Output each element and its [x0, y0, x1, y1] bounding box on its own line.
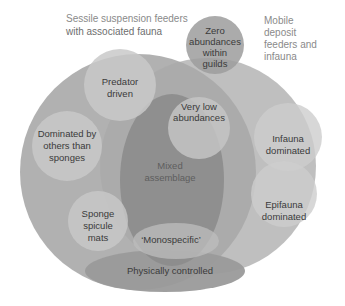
mobile-title-line-3: feeders and	[264, 39, 317, 50]
svg-text:Physically controlled: Physically controlled	[127, 265, 213, 276]
svg-text:abundances: abundances	[189, 36, 241, 47]
mobile-title: Mobile deposit feeders and infauna	[264, 15, 317, 62]
mobile-title-line-1: Mobile	[264, 15, 294, 26]
monospecific-label: ‘Monospecific’	[141, 234, 201, 245]
predator-driven-label: Predator driven	[102, 76, 138, 99]
epifauna-dominated-label: Epifauna dominated	[262, 199, 306, 222]
svg-text:‘Monospecific’: ‘Monospecific’	[141, 234, 201, 245]
svg-text:spicule: spicule	[83, 220, 113, 231]
svg-text:others than: others than	[43, 140, 91, 151]
svg-text:driven: driven	[107, 88, 133, 99]
svg-text:infauna: infauna	[264, 51, 297, 62]
svg-text:with associated fauna: with associated fauna	[65, 26, 163, 37]
mobile-title-line-4: infauna	[264, 51, 297, 62]
svg-text:Sessile suspension feeders: Sessile suspension feeders	[66, 13, 188, 24]
svg-text:Sponge: Sponge	[82, 208, 115, 219]
svg-text:guilds: guilds	[203, 58, 228, 69]
sessile-title: Sessile suspension feeders with associat…	[65, 13, 188, 37]
svg-text:Dominated by: Dominated by	[38, 128, 97, 139]
svg-text:deposit: deposit	[264, 27, 296, 38]
svg-text:Infauna: Infauna	[272, 133, 304, 144]
ecology-venn-diagram: Sessile suspension feeders with associat…	[0, 0, 345, 306]
infauna-dominated-label: Infauna dominated	[266, 133, 310, 156]
svg-text:dominated: dominated	[266, 145, 310, 156]
sessile-title-line-1: Sessile suspension feeders	[66, 13, 188, 24]
svg-text:sponges: sponges	[49, 152, 85, 163]
svg-text:abundances: abundances	[173, 112, 225, 123]
svg-text:Mobile: Mobile	[264, 15, 294, 26]
svg-text:within: within	[202, 47, 227, 58]
svg-text:Mixed: Mixed	[157, 160, 182, 171]
svg-text:assemblage: assemblage	[144, 172, 195, 183]
svg-text:feeders and: feeders and	[264, 39, 317, 50]
svg-text:Very low: Very low	[181, 101, 217, 112]
svg-text:mats: mats	[88, 232, 109, 243]
svg-text:dominated: dominated	[262, 211, 306, 222]
mobile-title-line-2: deposit	[264, 27, 296, 38]
svg-text:Zero: Zero	[205, 25, 225, 36]
physically-controlled-label: Physically controlled	[127, 265, 213, 276]
svg-text:Predator: Predator	[102, 76, 138, 87]
svg-text:Epifauna: Epifauna	[265, 199, 303, 210]
sessile-title-line-2: with associated fauna	[65, 26, 163, 37]
